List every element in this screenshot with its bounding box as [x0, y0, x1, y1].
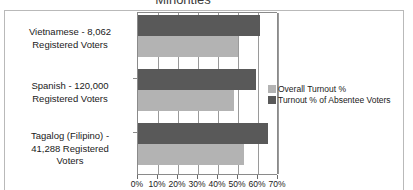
chart-container: Minorities Vietnamese - 8,062Registered …: [0, 0, 413, 190]
bar: [138, 15, 260, 36]
category-label-line: Spanish - 120,000: [6, 80, 134, 93]
category-axis-labels: Vietnamese - 8,062Registered VotersSpani…: [6, 12, 134, 175]
bar: [138, 144, 244, 165]
bar: [138, 123, 268, 144]
bar: [138, 90, 234, 111]
category-label-line: Registered Voters: [6, 39, 134, 52]
bar: [138, 36, 238, 57]
category-label-line: Tagalog (Filipino) -: [6, 130, 134, 143]
legend-label-overall: Overall Turnout %: [278, 84, 346, 94]
category-label-line: Voters: [6, 155, 134, 168]
category-label-line: Vietnamese - 8,062: [6, 26, 134, 39]
legend-swatch-icon-absentee: [268, 96, 276, 104]
category-tick-mark: [133, 132, 138, 133]
legend-label-absentee: Turnout % of Absentee Voters: [278, 95, 391, 105]
category-label-line: 41,288 Registered: [6, 143, 134, 156]
legend-item-overall-turnout: Overall Turnout %: [268, 84, 408, 94]
x-axis-labels: 0%10%20%30%40%50%60%70%: [119, 179, 297, 190]
legend-swatch-icon-overall: [268, 85, 276, 93]
legend-item-absentee-turnout: Turnout % of Absentee Voters: [268, 95, 408, 105]
x-axis-tick-label: 70%: [262, 179, 292, 189]
bar: [138, 69, 256, 90]
category-label: Vietnamese - 8,062Registered Voters: [6, 26, 134, 51]
chart-title: Minorities: [0, 0, 366, 7]
category-label: Spanish - 120,000Registered Voters: [6, 80, 134, 105]
chart-legend: Overall Turnout % Turnout % of Absentee …: [268, 84, 408, 106]
category-tick-mark: [133, 78, 138, 79]
category-label: Tagalog (Filipino) -41,288 RegisteredVot…: [6, 130, 134, 168]
category-label-line: Registered Voters: [6, 93, 134, 106]
